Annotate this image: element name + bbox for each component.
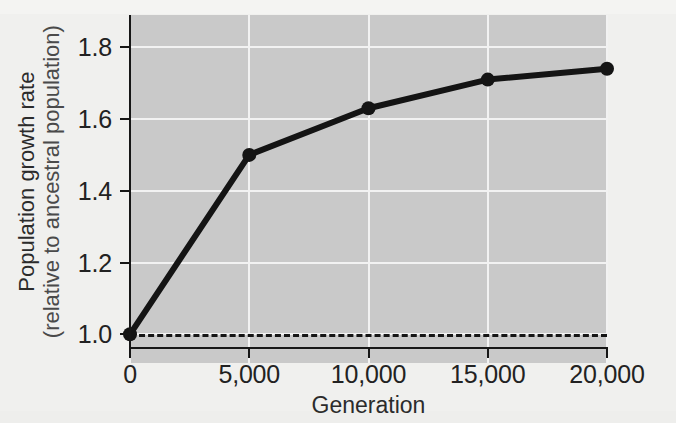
x-tick-label-20000: 20,000 xyxy=(569,360,644,389)
y-tick-mark-1.8 xyxy=(120,46,130,48)
y-tick-mark-1.4 xyxy=(120,190,130,192)
paper-top-margin xyxy=(0,0,676,14)
x-tick-label-15000: 15,000 xyxy=(450,360,525,389)
x-tick-label-0: 0 xyxy=(123,360,137,389)
x-tick-mark-5000 xyxy=(248,349,250,358)
y-tick-mark-1.0 xyxy=(120,333,130,335)
data-point-10000 xyxy=(362,101,376,115)
figure-chart: 1.01.21.41.61.8 05,00010,00015,00020,000… xyxy=(0,0,676,423)
data-point-15000 xyxy=(481,73,495,87)
y-axis-title-text: Population growth rate (relative to ance… xyxy=(15,25,64,338)
x-tick-mark-0 xyxy=(129,349,131,358)
data-series-line xyxy=(130,15,607,363)
plot-area xyxy=(130,15,607,363)
data-point-20000 xyxy=(600,62,614,76)
x-tick-mark-10000 xyxy=(368,349,370,358)
data-point-5000 xyxy=(242,148,256,162)
x-tick-label-10000: 10,000 xyxy=(331,360,406,389)
y-axis-line xyxy=(129,15,131,349)
y-axis-title-line2: (relative to ancestral population) xyxy=(40,25,65,338)
y-tick-mark-1.2 xyxy=(120,262,130,264)
x-tick-mark-20000 xyxy=(606,349,608,358)
y-tick-mark-1.6 xyxy=(120,118,130,120)
x-axis-title: Generation xyxy=(130,392,607,419)
y-axis-title: Population growth rate (relative to ance… xyxy=(0,0,80,363)
x-tick-label-5000: 5,000 xyxy=(218,360,280,389)
x-tick-mark-15000 xyxy=(487,349,489,358)
y-axis-title-line1: Population growth rate xyxy=(15,25,40,338)
